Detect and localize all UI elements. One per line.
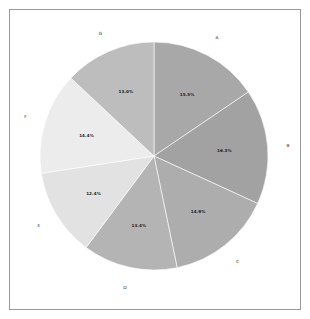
slice-category-label-d: D xyxy=(123,285,126,290)
slice-percent-label-e: 12.4% xyxy=(86,190,101,195)
slice-category-label-e: E xyxy=(37,223,40,228)
slice-percent-label-c: 14.9% xyxy=(191,209,206,214)
slice-percent-label-d: 13.4% xyxy=(131,223,146,228)
pie-chart-canvas xyxy=(0,0,310,319)
pie-chart-figure: 15.5%16.3%14.9%13.4%12.4%14.4%13.0% ABCD… xyxy=(0,0,310,319)
slice-category-label-a: A xyxy=(216,35,219,40)
slice-category-label-f: F xyxy=(24,114,26,119)
slice-category-label-c: C xyxy=(236,259,239,264)
slice-category-label-g: G xyxy=(99,30,102,35)
pie-slice-group xyxy=(40,42,268,270)
slice-percent-label-a: 15.5% xyxy=(180,91,195,96)
slice-percent-label-b: 16.3% xyxy=(217,148,232,153)
slice-category-label-b: B xyxy=(287,142,290,147)
slice-percent-label-f: 14.4% xyxy=(79,133,94,138)
slice-percent-label-g: 13.0% xyxy=(119,89,134,94)
